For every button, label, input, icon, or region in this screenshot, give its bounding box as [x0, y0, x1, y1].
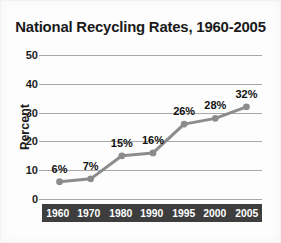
data-point-marker	[56, 178, 63, 185]
y-axis-tick-label: 0	[32, 193, 38, 205]
y-axis-tick-label: 20	[26, 135, 38, 147]
data-point-label: 16%	[142, 134, 164, 146]
data-point-label: 32%	[235, 88, 257, 100]
x-axis-tick-label: 1995	[169, 207, 199, 219]
plot-area: 50403020100 6%7%15%16%26%28%32%	[44, 55, 262, 199]
y-axis-tick-mark	[39, 199, 44, 200]
x-axis-tick-label: 1960	[43, 207, 73, 219]
data-point-marker	[243, 103, 250, 110]
data-point-label: 28%	[204, 99, 226, 111]
x-axis-tick-label: 1990	[137, 207, 167, 219]
data-point-label: 15%	[111, 137, 133, 149]
x-axis-tick-label: 1980	[106, 207, 136, 219]
recycling-rates-chart: National Recycling Rates, 1960-2005 Perc…	[0, 0, 281, 243]
data-point-marker	[118, 152, 125, 159]
y-axis-tick-label: 10	[26, 164, 38, 176]
y-axis-tick-label: 40	[26, 78, 38, 90]
x-axis-tick-label: 2005	[231, 207, 261, 219]
x-axis-tick-label: 1970	[74, 207, 104, 219]
recycling-rate-line-series	[44, 55, 262, 199]
data-point-marker	[87, 175, 94, 182]
data-point-marker	[150, 150, 157, 157]
chart-title: National Recycling Rates, 1960-2005	[6, 18, 276, 36]
x-axis-label-bar: 1960197019801990199520002005	[42, 204, 262, 222]
data-point-label: 26%	[173, 105, 195, 117]
data-point-marker	[181, 121, 188, 128]
x-axis-tick-label: 2000	[200, 207, 230, 219]
y-axis-title: Percent	[18, 55, 32, 199]
y-axis-tick-label: 50	[26, 49, 38, 61]
gridline	[44, 199, 262, 200]
data-point-label: 6%	[52, 163, 68, 175]
data-point-marker	[212, 115, 219, 122]
y-axis-tick-label: 30	[26, 107, 38, 119]
data-point-label: 7%	[83, 160, 99, 172]
